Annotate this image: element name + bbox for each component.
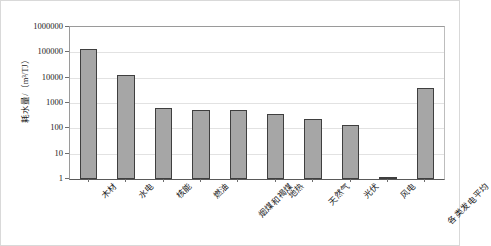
bar <box>267 114 284 179</box>
bar <box>117 75 134 179</box>
x-axis-tick-mark <box>237 179 238 182</box>
x-axis-tick-mark <box>200 179 201 182</box>
x-axis-tick-label: 燃油 <box>211 181 231 201</box>
bar <box>192 110 209 179</box>
x-axis-tick-mark <box>350 179 351 182</box>
y-axis-tick-label: 100000 <box>1 47 63 56</box>
bar <box>80 49 97 179</box>
bar <box>230 110 247 179</box>
bar <box>304 119 321 179</box>
x-axis-tick-mark <box>387 179 388 182</box>
x-axis-tick-mark <box>312 179 313 182</box>
x-axis-tick-label: 核能 <box>174 181 194 201</box>
x-axis-tick-mark <box>424 179 425 182</box>
gridline <box>70 52 444 53</box>
x-axis-tick-mark <box>275 179 276 182</box>
x-axis-tick-label: 光伏 <box>361 181 381 201</box>
y-axis-tick-label: 100 <box>1 123 63 132</box>
x-axis-tick-label: 天然气 <box>326 181 352 207</box>
x-axis-tick-mark <box>88 179 89 182</box>
plot-area <box>69 26 445 180</box>
x-axis-tick-label: 烟煤和褐煤 <box>256 181 295 220</box>
bar <box>417 88 434 179</box>
y-axis-title: 耗水量/（m³/TJ） <box>17 9 33 169</box>
bar <box>342 125 359 179</box>
bar <box>379 177 396 179</box>
y-axis-tick-label: 1000000 <box>1 22 63 31</box>
x-axis-tick-mark <box>125 179 126 182</box>
x-axis-tick-label: 风电 <box>398 181 418 201</box>
y-axis-tick-label: 10 <box>1 148 63 157</box>
x-axis-tick-label: 水电 <box>136 181 156 201</box>
x-axis-tick-label: 各类发电平均 <box>446 181 491 226</box>
x-axis-tick-label: 木材 <box>99 181 119 201</box>
y-axis-tick-label: 10000 <box>1 72 63 81</box>
bar <box>155 108 172 179</box>
y-axis-tick-label: 1 <box>1 174 63 183</box>
x-axis-tick-mark <box>163 179 164 182</box>
y-axis-tick-label: 1000 <box>1 98 63 107</box>
